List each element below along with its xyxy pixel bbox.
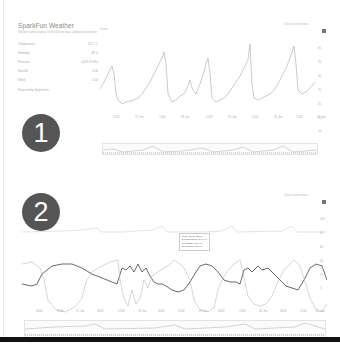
station-title: SparkFun Weather (18, 22, 98, 29)
powered-by-link[interactable]: Powered by Highcharts (18, 88, 98, 92)
chart2-xtick: 06:00 (158, 310, 165, 313)
readings-list: Temperature22.1 °C Humidity48 % Pressure… (18, 40, 98, 85)
chart2-xtick: 29. Jan (199, 310, 208, 313)
chart2-xtick: 06:00 (36, 310, 43, 313)
chart2-xtick: 30. Jan (259, 310, 268, 313)
bottom-black-bar (0, 337, 340, 342)
reading-row: Humidity48 % (18, 49, 98, 58)
chart1-ytick: 40 (318, 47, 321, 50)
chart1-xtick: 12:00 (113, 116, 120, 119)
reading-row: Pressure1013.25 hPa (18, 58, 98, 67)
chart2-xtick: 12:00 (178, 310, 185, 313)
summary-sidebar: SparkFun Weather Weather station reading… (18, 22, 98, 92)
reading-row: Temperature22.1 °C (18, 40, 98, 49)
chart2-tooltip: Wed, Jan 29 12:00 ● Temperature: 34.1 °C… (179, 233, 210, 251)
chart1-xtick: 30. Jan (274, 116, 283, 119)
chart2-xtick: 12:00 (239, 310, 246, 313)
chart1-xtick: 29. Jan (228, 116, 237, 119)
chart2-xtick: 12:00 (57, 310, 64, 313)
chart2-navigator[interactable] (24, 320, 326, 338)
chart1-export-link[interactable]: Chart context menu (284, 22, 308, 26)
station-subtitle: Weather station readings for the last fe… (18, 31, 98, 34)
step-badge-1: 1 (22, 114, 60, 152)
chart1-ytick: 25 (318, 89, 321, 92)
chart1-ytick: 10 (318, 130, 321, 133)
reading-row: Wind3.10 (18, 76, 98, 85)
chart1-xtick: 12:00 (206, 116, 213, 119)
chart1-xtick: 27. Jan (135, 116, 144, 119)
chart2-xtick: 12:00 (118, 310, 125, 313)
chart1-plot[interactable] (100, 44, 315, 109)
chart1-ytick: 35 (318, 61, 321, 64)
chart2-xtick: 06:00 (280, 310, 287, 313)
chart1-zoom-label: Zoom (100, 27, 108, 31)
chart2-xtick: 06:00 (218, 310, 225, 313)
chart1-ytick: 30 (318, 75, 321, 78)
chart1-xtick: 31. Jan (317, 116, 326, 119)
reading-row: Rainfall0.00 (18, 67, 98, 76)
chart2-export-link[interactable]: Chart context menu (284, 193, 308, 197)
chart1-navigator[interactable] (102, 143, 318, 155)
chart2-xtick: 31. Jan (316, 310, 325, 313)
chart2-xtick: 28. Jan (138, 310, 147, 313)
chart2-xtick: 12:00 (300, 310, 307, 313)
chart1-ytick: 20 (318, 103, 321, 106)
page-left-border (3, 0, 4, 337)
chart1-xtick: 28. Jan (181, 116, 190, 119)
chart2-plot[interactable] (22, 220, 327, 320)
chart2-xtick: 06:00 (97, 310, 104, 313)
chart1-xtick: 12:00 (296, 116, 303, 119)
chart1-xtick: 12:00 (159, 116, 166, 119)
chart1-xtick: 12:00 (252, 116, 259, 119)
chart2-xtick: 27. Jan (76, 310, 85, 313)
chart1-menu-icon[interactable] (322, 29, 326, 33)
chart2-menu-icon[interactable] (322, 200, 326, 204)
